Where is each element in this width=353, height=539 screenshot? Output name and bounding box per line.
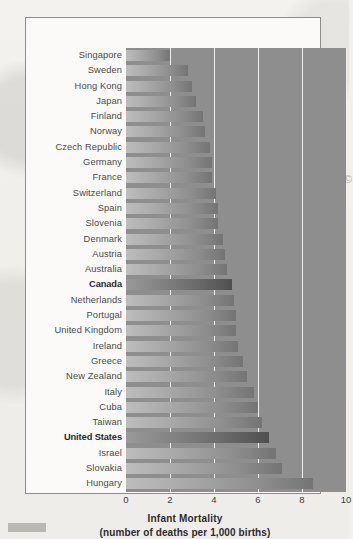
- category-label-taiwan: Taiwan: [52, 415, 122, 430]
- category-label-canada: Canada: [52, 277, 122, 292]
- category-label-austria: Austria: [52, 247, 122, 262]
- bar-portugal: [126, 310, 236, 321]
- page-smudge-mark: ©: [344, 173, 353, 185]
- category-label-netherlands: Netherlands: [52, 293, 122, 308]
- category-label-norway: Norway: [52, 124, 122, 139]
- category-label-denmark: Denmark: [52, 232, 122, 247]
- gridline-10: [346, 48, 347, 492]
- bar-row: [126, 186, 346, 201]
- category-label-ireland: Ireland: [52, 339, 122, 354]
- bar-row: [126, 48, 346, 63]
- x-tick-label-4: 4: [211, 494, 216, 505]
- bar-canada: [126, 279, 232, 290]
- bar-ireland: [126, 341, 238, 352]
- category-label-new-zealand: New Zealand: [52, 369, 122, 384]
- bar-series: [126, 48, 346, 492]
- bar-switzerland: [126, 188, 216, 199]
- bar-row: [126, 354, 346, 369]
- bar-new-zealand: [126, 371, 247, 382]
- bar-row: [126, 293, 346, 308]
- bar-row: [126, 94, 346, 109]
- bar-france: [126, 172, 212, 183]
- bar-row: [126, 385, 346, 400]
- category-label-israel: Israel: [52, 446, 122, 461]
- category-label-singapore: Singapore: [52, 48, 122, 63]
- bar-czech-republic: [126, 142, 210, 153]
- bar-australia: [126, 264, 227, 275]
- category-label-france: France: [52, 170, 122, 185]
- page-corner-tab: [8, 523, 46, 532]
- bar-row: [126, 323, 346, 338]
- bar-hong-kong: [126, 81, 192, 92]
- bar-row: [126, 124, 346, 139]
- bar-row: [126, 476, 346, 491]
- category-label-japan: Japan: [52, 94, 122, 109]
- x-tick-label-8: 8: [299, 494, 304, 505]
- bar-germany: [126, 157, 212, 168]
- category-label-cuba: Cuba: [52, 400, 122, 415]
- bar-sweden: [126, 65, 188, 76]
- category-axis-labels: SingaporeSwedenHong KongJapanFinlandNorw…: [52, 48, 122, 492]
- bar-row: [126, 400, 346, 415]
- bar-spain: [126, 203, 218, 214]
- bar-japan: [126, 96, 196, 107]
- category-label-united-kingdom: United Kingdom: [52, 323, 122, 338]
- value-axis-ticks: 0246810: [126, 494, 346, 508]
- bar-row: [126, 63, 346, 78]
- bar-row: [126, 308, 346, 323]
- bar-italy: [126, 387, 254, 398]
- bar-finland: [126, 111, 203, 122]
- bar-united-states: [126, 432, 269, 443]
- bar-row: [126, 415, 346, 430]
- bar-norway: [126, 126, 205, 137]
- category-label-italy: Italy: [52, 385, 122, 400]
- bar-row: [126, 170, 346, 185]
- category-label-hong-kong: Hong Kong: [52, 79, 122, 94]
- category-label-finland: Finland: [52, 109, 122, 124]
- category-label-hungary: Hungary: [52, 476, 122, 491]
- bar-row: [126, 339, 346, 354]
- bar-greece: [126, 356, 243, 367]
- bar-row: [126, 461, 346, 476]
- bar-row: [126, 109, 346, 124]
- bar-israel: [126, 448, 276, 459]
- chart-plot-area: [126, 48, 346, 492]
- category-label-slovakia: Slovakia: [52, 461, 122, 476]
- category-label-switzerland: Switzerland: [52, 186, 122, 201]
- x-tick-label-10: 10: [341, 494, 352, 505]
- chart-axis-title: Infant Mortality: [52, 513, 318, 524]
- bar-row: [126, 446, 346, 461]
- chart-axis-subtitle: (number of deaths per 1,000 births): [52, 527, 318, 538]
- x-tick-label-2: 2: [167, 494, 172, 505]
- category-label-germany: Germany: [52, 155, 122, 170]
- category-label-united-states: United States: [52, 430, 122, 445]
- bar-austria: [126, 249, 225, 260]
- bar-slovakia: [126, 463, 282, 474]
- bar-row: [126, 277, 346, 292]
- bar-row: [126, 369, 346, 384]
- bar-row: [126, 216, 346, 231]
- category-label-greece: Greece: [52, 354, 122, 369]
- bar-hungary: [126, 478, 313, 489]
- bar-row: [126, 155, 346, 170]
- bar-netherlands: [126, 295, 234, 306]
- category-label-czech-republic: Czech Republic: [52, 140, 122, 155]
- category-label-australia: Australia: [52, 262, 122, 277]
- bar-row: [126, 232, 346, 247]
- bar-row: [126, 140, 346, 155]
- bar-united-kingdom: [126, 325, 236, 336]
- bar-singapore: [126, 50, 170, 61]
- bar-slovenia: [126, 218, 218, 229]
- bar-row: [126, 201, 346, 216]
- x-tick-label-6: 6: [255, 494, 260, 505]
- bar-row: [126, 79, 346, 94]
- category-label-portugal: Portugal: [52, 308, 122, 323]
- bar-denmark: [126, 234, 223, 245]
- bar-cuba: [126, 402, 258, 413]
- bar-taiwan: [126, 417, 262, 428]
- bar-row: [126, 262, 346, 277]
- x-tick-label-0: 0: [123, 494, 128, 505]
- category-label-spain: Spain: [52, 201, 122, 216]
- bar-row: [126, 430, 346, 445]
- bar-row: [126, 247, 346, 262]
